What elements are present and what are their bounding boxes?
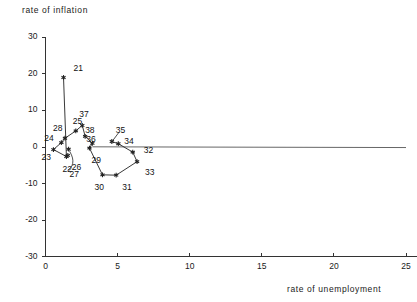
x-tick-label: 15 xyxy=(249,261,275,271)
y-axis-title: rate of inflation xyxy=(22,5,88,15)
plot-area xyxy=(0,0,417,302)
point-label-23: 23 xyxy=(41,152,50,162)
point-label-28: 28 xyxy=(53,123,62,133)
y-tick-label: 20 xyxy=(12,68,38,78)
inflation-unemployment-scatter-chart: rate of inflation rate of unemployment 3… xyxy=(0,0,417,302)
y-tick-label: 10 xyxy=(12,104,38,114)
x-axis-title: rate of unemployment xyxy=(287,284,381,294)
x-tick-label: 25 xyxy=(393,261,417,271)
data-point-marker xyxy=(61,75,65,80)
y-tick-label: -20 xyxy=(12,214,38,224)
point-label-36: 36 xyxy=(86,134,95,144)
x-tick-label: 0 xyxy=(33,261,59,271)
y-tick-label: 0 xyxy=(12,141,38,151)
long-horizontal-series-line xyxy=(92,147,406,148)
point-label-35: 35 xyxy=(116,125,125,135)
point-label-37: 37 xyxy=(79,109,88,119)
data-point-marker xyxy=(66,147,70,152)
point-label-21: 21 xyxy=(74,63,83,73)
point-label-31: 31 xyxy=(122,182,131,192)
y-tick-label: -10 xyxy=(12,178,38,188)
data-point-marker xyxy=(131,150,135,155)
point-label-24: 24 xyxy=(44,133,53,143)
point-label-33: 33 xyxy=(145,167,154,177)
point-label-29: 29 xyxy=(91,155,100,165)
y-tick-label: -30 xyxy=(12,251,38,261)
point-label-30: 30 xyxy=(94,182,103,192)
data-point-marker xyxy=(135,159,139,164)
x-tick-label: 10 xyxy=(177,261,203,271)
point-label-38: 38 xyxy=(85,125,94,135)
point-label-32: 32 xyxy=(144,145,153,155)
y-tick-label: 30 xyxy=(12,31,38,41)
x-tick-label: 5 xyxy=(105,261,131,271)
point-label-34: 34 xyxy=(124,136,133,146)
point-label-27: 27 xyxy=(70,169,79,179)
x-tick-label: 20 xyxy=(321,261,347,271)
data-point-marker xyxy=(116,141,120,146)
